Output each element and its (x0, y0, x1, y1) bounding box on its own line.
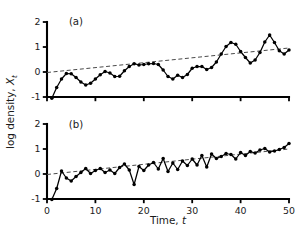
data-point (147, 163, 151, 167)
panel-a-label: (a) (69, 16, 83, 27)
data-point (273, 149, 277, 153)
y-axis-title: log density, Xt (4, 74, 19, 149)
data-point (200, 65, 204, 69)
data-point (171, 77, 175, 81)
data-point (234, 157, 238, 161)
panel-b-series-markers (50, 142, 291, 202)
x-tick-label: 20 (138, 205, 150, 216)
data-point (123, 162, 127, 166)
data-point (166, 170, 170, 174)
data-point (239, 50, 243, 54)
data-point (79, 171, 83, 175)
panel-a-axes: -1012 (31, 16, 289, 102)
data-point (55, 86, 59, 90)
data-point (287, 142, 291, 146)
panel-b-label: (b) (69, 119, 83, 130)
data-point (118, 166, 122, 170)
panel-a-trend-line (47, 48, 289, 73)
data-point (205, 165, 209, 169)
data-point (113, 75, 117, 79)
x-tick-label: 0 (44, 205, 50, 216)
x-axis-title-symbol: t (182, 214, 187, 226)
data-point (253, 151, 257, 155)
data-point (84, 83, 88, 87)
data-point (161, 157, 165, 161)
data-point (65, 72, 69, 76)
chart-svg: -1012 (a) -1012 01020304050 (b) Time, t (0, 0, 300, 230)
data-point (244, 154, 248, 158)
y-tick-label: 0 (35, 66, 41, 77)
data-point (287, 48, 291, 52)
data-point (69, 179, 73, 183)
panel-b-series-line (52, 144, 289, 200)
data-point (278, 49, 282, 53)
data-point (113, 172, 117, 176)
panel-b-axes: -1012 01020304050 (31, 118, 295, 215)
data-point (219, 52, 223, 56)
data-point (65, 176, 69, 180)
data-point (234, 43, 238, 47)
data-point (258, 51, 262, 55)
data-point (152, 62, 156, 66)
panel-b-y-tick-labels: -1012 (31, 118, 40, 204)
data-point (147, 62, 151, 66)
data-point (142, 169, 146, 173)
data-point (69, 72, 73, 76)
data-point (253, 58, 257, 62)
panel-a-series-line (52, 35, 289, 98)
panel-a: -1012 (a) (31, 16, 291, 102)
data-point (89, 172, 93, 176)
data-point (229, 41, 233, 45)
data-point (181, 159, 185, 163)
data-point (157, 63, 161, 67)
y-tick-label: 1 (35, 143, 41, 154)
data-point (123, 69, 127, 73)
x-tick-label: 30 (186, 205, 198, 216)
data-point (89, 82, 93, 86)
data-point (137, 63, 141, 67)
data-point (215, 60, 219, 64)
data-point (195, 163, 199, 167)
panel-b: -1012 01020304050 (b) (31, 118, 295, 215)
panel-a-y-tick-labels: -1012 (31, 16, 40, 102)
y-axis-title-prefix: log density, (4, 85, 16, 149)
data-point (103, 70, 107, 74)
data-point (195, 65, 199, 69)
data-point (118, 75, 122, 79)
data-point (282, 52, 286, 56)
data-point (186, 164, 190, 168)
data-point (176, 74, 180, 78)
data-point (132, 183, 136, 187)
data-point (268, 33, 272, 37)
data-point (50, 198, 54, 202)
data-point (157, 167, 161, 171)
data-point (128, 65, 132, 69)
data-point (108, 168, 112, 172)
data-point (79, 80, 83, 84)
data-point (60, 169, 64, 173)
data-point (74, 76, 78, 80)
data-point (84, 167, 88, 171)
data-point (142, 63, 146, 67)
data-point (137, 165, 141, 169)
y-tick-label: 1 (35, 41, 41, 52)
y-tick-label: -1 (31, 193, 40, 204)
data-point (176, 168, 180, 172)
data-point (200, 154, 204, 158)
data-point (186, 73, 190, 77)
data-point (166, 75, 170, 79)
x-tick-label: 40 (235, 205, 247, 216)
data-point (268, 150, 272, 154)
data-point (55, 187, 59, 191)
data-point (190, 67, 194, 71)
data-point (249, 61, 253, 65)
data-point (94, 77, 98, 81)
figure-container: -1012 (a) -1012 01020304050 (b) Time, t (0, 0, 300, 230)
data-point (210, 66, 214, 70)
data-point (278, 148, 282, 152)
data-point (171, 161, 175, 165)
data-point (74, 175, 78, 179)
data-point (181, 76, 185, 80)
x-axis-title: Time, t (149, 214, 187, 226)
data-point (273, 41, 277, 45)
